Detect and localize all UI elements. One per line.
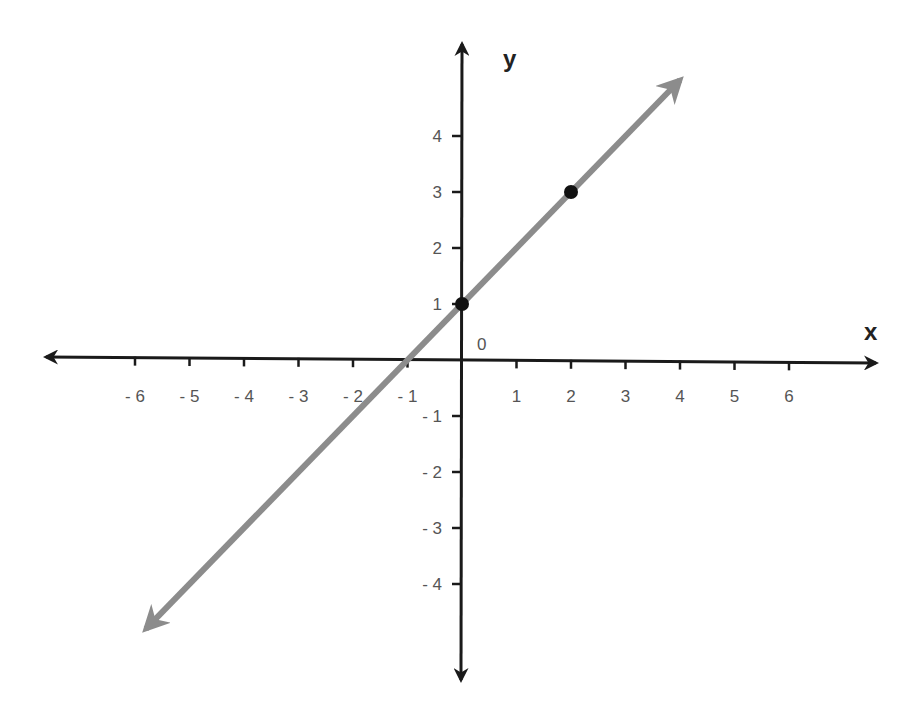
y-tick-label: - 1 bbox=[422, 407, 442, 426]
x-tick-label: 2 bbox=[566, 387, 575, 406]
x-tick-label: - 6 bbox=[125, 387, 145, 406]
origin-label: 0 bbox=[477, 335, 486, 354]
plotted-point bbox=[564, 185, 578, 199]
x-tick-label: 1 bbox=[512, 387, 521, 406]
y-tick-label: - 3 bbox=[422, 519, 442, 538]
x-tick-label: - 2 bbox=[343, 387, 363, 406]
y-tick-label: 4 bbox=[433, 127, 442, 146]
y-tick-label: 1 bbox=[433, 295, 442, 314]
x-tick-label: 3 bbox=[621, 387, 630, 406]
plotted-point bbox=[455, 297, 469, 311]
line-y-equals-x-plus-1 bbox=[146, 80, 680, 629]
x-tick-label: - 3 bbox=[289, 387, 309, 406]
y-tick-label: - 2 bbox=[422, 463, 442, 482]
x-tick-label: - 1 bbox=[398, 387, 418, 406]
y-tick-label: - 4 bbox=[422, 575, 442, 594]
x-tick-label: 6 bbox=[784, 387, 793, 406]
y-axis-label: y bbox=[503, 45, 517, 72]
x-axis-label: x bbox=[864, 318, 878, 345]
x-tick-label: 4 bbox=[675, 387, 684, 406]
coordinate-plane: - 6- 5- 4- 3- 2- 11234564321- 1- 2- 3- 4… bbox=[0, 0, 918, 721]
x-tick-label: - 5 bbox=[180, 387, 200, 406]
x-tick-label: 5 bbox=[730, 387, 739, 406]
x-tick-label: - 4 bbox=[234, 387, 254, 406]
y-tick-label: 2 bbox=[433, 239, 442, 258]
y-tick-label: 3 bbox=[433, 183, 442, 202]
